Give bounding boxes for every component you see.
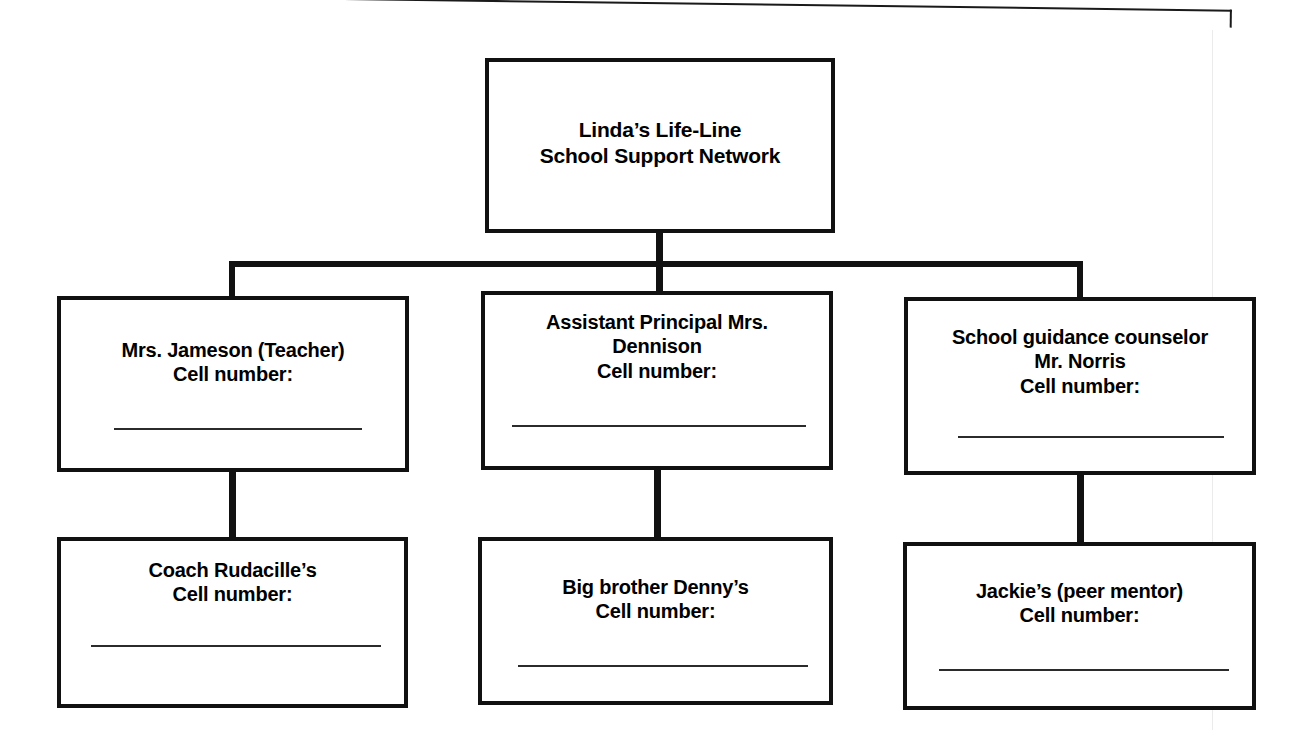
connector-guidance-counselor-to-peer-mentor [1077, 472, 1084, 542]
node-guidance-counselor[interactable]: School guidance counselor Mr. Norris Cel… [904, 297, 1256, 475]
node-coach[interactable]: Coach Rudacille’s Cell number: [57, 537, 408, 708]
connector-teacher-to-coach [229, 469, 236, 539]
connector-assistant-principal-to-big-brother [654, 469, 661, 539]
organizational-chart-page: Linda’s Life-Line School Support Network… [0, 0, 1300, 755]
node-root-label: Linda’s Life-Line School Support Network [530, 117, 791, 168]
node-teacher-label: Mrs. Jameson (Teacher) Cell number: [113, 338, 352, 387]
connector-bus-to-guidance-counselor [1077, 261, 1083, 299]
node-coach-label: Coach Rudacille’s Cell number: [140, 558, 324, 607]
node-peer-mentor-label: Jackie’s (peer mentor) Cell number: [968, 579, 1191, 628]
node-teacher-fill-line[interactable] [114, 428, 362, 430]
node-big-brother-label: Big brother Denny’s Cell number: [554, 575, 757, 624]
node-guidance-counselor-label: School guidance counselor Mr. Norris Cel… [946, 325, 1214, 398]
scan-page-frame-artifact [38, 0, 1232, 28]
node-peer-mentor-fill-line[interactable] [939, 669, 1229, 671]
connector-bus-to-teacher [229, 261, 235, 299]
node-coach-fill-line[interactable] [91, 645, 381, 647]
node-big-brother[interactable]: Big brother Denny’s Cell number: [478, 537, 833, 705]
node-peer-mentor[interactable]: Jackie’s (peer mentor) Cell number: [903, 542, 1256, 710]
node-root[interactable]: Linda’s Life-Line School Support Network [485, 58, 835, 233]
node-assistant-principal-label: Assistant Principal Mrs. Dennison Cell n… [536, 310, 778, 383]
node-assistant-principal[interactable]: Assistant Principal Mrs. Dennison Cell n… [481, 291, 833, 470]
node-big-brother-fill-line[interactable] [518, 665, 808, 667]
node-assistant-principal-fill-line[interactable] [512, 425, 806, 427]
node-teacher[interactable]: Mrs. Jameson (Teacher) Cell number: [57, 296, 409, 472]
node-guidance-counselor-fill-line[interactable] [958, 436, 1224, 438]
